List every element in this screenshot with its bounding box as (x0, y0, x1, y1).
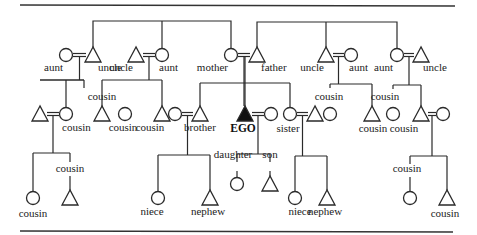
cousin-circle-icon (27, 192, 40, 205)
label-c1_s: cousin (56, 162, 85, 174)
cousin-circle-icon (387, 108, 400, 121)
cousin-triangle-icon (154, 106, 170, 121)
label-c8_s: cousin (431, 207, 460, 219)
label-c8: cousin (390, 122, 419, 134)
kinship-diagram: auntuncleuncleauntmotherfatheruncleaunta… (0, 0, 477, 235)
uncle-triangle-icon (318, 47, 334, 62)
ego-filled-triangle-icon (237, 106, 253, 121)
label-c3: cousin (109, 121, 138, 133)
cousin-triangle-icon (364, 106, 380, 121)
sibling-line-paternal (257, 22, 397, 48)
label-g_aunt4: aunt (374, 61, 393, 73)
descent-lines (33, 21, 447, 191)
cousin-triangle-icon (439, 190, 455, 205)
cousin-triangle-icon (62, 190, 78, 205)
son-triangle-icon (262, 176, 278, 191)
label-c2: cousin (88, 90, 117, 102)
label-g_aunt3: aunt (349, 61, 368, 73)
label-mother: mother (197, 61, 228, 73)
spouse-circle-icon (437, 108, 450, 121)
uncle-triangle-icon (85, 47, 101, 62)
label-g_uncle4: uncle (423, 61, 447, 73)
label-c6: cousin (359, 122, 388, 134)
label-father: father (261, 61, 287, 73)
spouse-triangle-icon (307, 106, 323, 121)
niece-circle-icon (289, 192, 302, 205)
spouse-circle-icon (265, 108, 278, 121)
label-brother: brother (184, 121, 216, 133)
nephew-triangle-icon (202, 190, 218, 205)
spouse-circle-icon (169, 108, 182, 121)
label-c5: cousin (315, 90, 344, 102)
label-c7: cousin (371, 90, 400, 102)
top-rule (20, 5, 455, 6)
uncle-triangle-icon (413, 47, 429, 62)
aunt-circle-icon (60, 49, 73, 62)
cousin-circle-icon (404, 192, 417, 205)
daughter-circle-icon (231, 178, 244, 191)
aunt-circle-icon (391, 49, 404, 62)
label-nephew1: nephew (191, 205, 225, 217)
label-c8_d: cousin (393, 162, 422, 174)
brother-triangle-icon (192, 106, 208, 121)
mother-circle-icon (225, 49, 238, 62)
aunt-circle-icon (156, 49, 169, 62)
cousin-triangle-icon (94, 106, 110, 121)
label-ego: EGO (230, 122, 256, 134)
label-g_aunt2: aunt (159, 61, 178, 73)
label-daughter: daughter (214, 148, 253, 160)
father-triangle-icon (249, 47, 265, 62)
cousin-circle-icon (60, 108, 73, 121)
spouse-triangle-icon (32, 106, 48, 121)
label-c1: cousin (62, 121, 91, 133)
cousin-circle-icon (119, 108, 132, 121)
niece-circle-icon (152, 192, 165, 205)
label-g_uncle2: uncle (109, 61, 133, 73)
cousin-triangle-icon (413, 106, 429, 121)
uncle-triangle-icon (128, 47, 144, 62)
cousin-circle-icon (324, 108, 337, 121)
label-g_uncle3: uncle (300, 61, 324, 73)
sister-circle-icon (284, 108, 297, 121)
label-sister: sister (276, 122, 300, 134)
label-nephew2: nephew (308, 205, 342, 217)
bottom-rule (20, 231, 453, 232)
label-g_aunt1: aunt (44, 61, 63, 73)
label-c4: cousin (136, 121, 165, 133)
label-son: son (262, 148, 278, 160)
nephew-triangle-icon (319, 190, 335, 205)
label-c1_d: cousin (19, 207, 48, 219)
aunt-circle-icon (345, 49, 358, 62)
label-niece1: niece (140, 205, 163, 217)
descent-sister (295, 116, 327, 191)
